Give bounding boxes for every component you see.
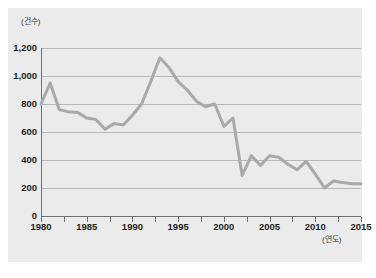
y-tick-label: 800: [3, 99, 37, 109]
x-tick-label: 1990: [110, 222, 154, 232]
x-tick-label: 2010: [293, 222, 337, 232]
y-axis-tick-labels: 1,2001,0008006004002000: [0, 0, 37, 278]
x-tick-label: 2000: [202, 222, 246, 232]
x-axis-unit-label: (연도): [322, 236, 341, 244]
x-tick-label: 2015: [339, 222, 376, 232]
x-tick-label: 2005: [248, 222, 292, 232]
y-tick-label: 1,000: [3, 71, 37, 81]
x-tick-label: 1980: [19, 222, 63, 232]
x-tick-label: 1995: [156, 222, 200, 232]
y-tick-label: 1,200: [3, 43, 37, 53]
series-group: [41, 48, 361, 217]
y-tick-label: 400: [3, 155, 37, 165]
y-tick-label: 0: [3, 211, 37, 221]
x-tick-label: 1985: [65, 222, 109, 232]
y-tick-label: 200: [3, 183, 37, 193]
y-tick-label: 600: [3, 127, 37, 137]
data-line-건수: [41, 58, 361, 188]
